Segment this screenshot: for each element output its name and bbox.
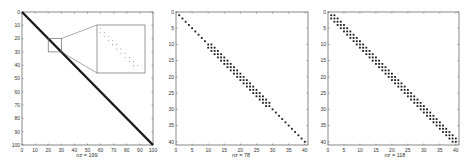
svg-text:40: 40 [320,139,326,145]
spy-plot-3: 05101520253035400510152025303540 nz = 11… [313,0,473,168]
svg-text:20: 20 [14,35,20,41]
svg-text:30: 30 [168,106,174,112]
svg-text:25: 25 [168,90,174,96]
svg-text:15: 15 [168,57,174,63]
svg-text:50: 50 [14,75,20,81]
spy-plot-2-canvas: 05101520253035400510152025303540 [155,0,315,168]
plot2-xlabel: nz = 78 [191,152,291,158]
svg-text:40: 40 [302,147,308,153]
svg-text:35: 35 [320,122,326,128]
svg-text:60: 60 [14,89,20,95]
svg-text:10: 10 [168,41,174,47]
plot1-xlabel: nz = 199 [37,152,137,158]
svg-text:20: 20 [168,74,174,80]
svg-text:40: 40 [453,147,459,153]
svg-text:100: 100 [12,142,21,148]
spy-plot-3-canvas: 05101520253035400510152025303540 [313,0,473,168]
svg-text:30: 30 [320,106,326,112]
svg-text:0: 0 [171,9,174,15]
svg-text:0: 0 [323,9,326,15]
svg-text:25: 25 [320,90,326,96]
svg-text:30: 30 [14,49,20,55]
svg-text:35: 35 [168,122,174,128]
spy-plot-2: 05101520253035400510152025303540 nz = 78 [155,0,315,168]
svg-text:20: 20 [320,74,326,80]
svg-text:90: 90 [14,129,20,135]
svg-text:15: 15 [320,57,326,63]
svg-text:10: 10 [320,41,326,47]
svg-text:0: 0 [175,147,178,153]
svg-text:90: 90 [137,147,143,153]
svg-text:40: 40 [14,62,20,68]
svg-text:0: 0 [21,147,24,153]
svg-text:80: 80 [14,115,20,121]
plot3-xlabel: nz = 118 [345,152,445,158]
spy-plot-1-canvas: 0102030405060708090100010203040506070809… [0,0,160,168]
spy-plot-1: 0102030405060708090100010203040506070809… [0,0,160,168]
svg-text:0: 0 [17,9,20,15]
svg-text:70: 70 [14,102,20,108]
svg-text:40: 40 [168,139,174,145]
svg-text:5: 5 [171,25,174,31]
svg-text:10: 10 [14,22,20,28]
svg-text:0: 0 [327,147,330,153]
svg-text:5: 5 [323,25,326,31]
